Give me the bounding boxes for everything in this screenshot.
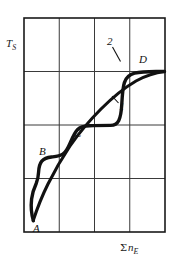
curve-label-2: 2 xyxy=(107,36,113,47)
plot-svg xyxy=(0,0,177,272)
x-axis-label-subscript: E xyxy=(134,247,139,256)
curve-label-1: 1 xyxy=(119,101,125,112)
leader-line-curve-2 xyxy=(113,47,121,62)
curve-2-path xyxy=(31,72,164,221)
point-label-a: A xyxy=(33,223,40,234)
point-label-c: C xyxy=(74,128,81,139)
x-axis-label: ΣnE xyxy=(120,242,138,256)
point-label-d: D xyxy=(139,54,147,65)
point-label-b: B xyxy=(39,146,46,157)
sigma-symbol: Σ xyxy=(120,242,127,253)
y-axis-label: TS xyxy=(6,38,16,52)
y-axis-label-subscript: S xyxy=(12,43,16,52)
curve-1-path xyxy=(33,72,164,221)
figure-container: TS ΣnE A B C D 2 1 xyxy=(0,0,177,272)
